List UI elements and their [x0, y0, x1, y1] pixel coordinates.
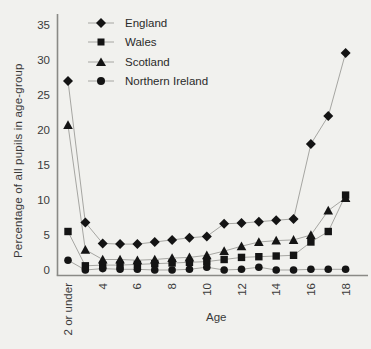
x-axis-title: Age — [206, 311, 226, 323]
x-tick-labels: 2 or under4681012141618 — [62, 282, 352, 335]
legend-item-england: England — [88, 13, 208, 33]
legend-item-northern-ireland: Northern Ireland — [88, 72, 208, 92]
chart-legend: England Wales Scotland Northern Ireland — [88, 13, 208, 91]
triangle-marker-icon — [88, 56, 114, 68]
legend-label-scotland: Scotland — [125, 56, 170, 68]
x-tick-label: 2 or under — [62, 283, 74, 336]
y-tick-label: 30 — [37, 54, 50, 66]
y-tick-label: 15 — [37, 159, 50, 171]
legend-item-wales: Wales — [88, 33, 208, 53]
y-tick-label: 20 — [37, 124, 50, 136]
legend-label-wales: Wales — [125, 36, 157, 48]
square-marker-icon — [88, 36, 114, 48]
x-tick-label: 14 — [270, 282, 282, 295]
chart-figure: 051015202530352 or under4681012141618 Pe… — [0, 0, 371, 349]
y-tick-label: 0 — [44, 264, 50, 276]
y-axis-title: Percentage of all pupils in age-group — [12, 63, 24, 258]
y-tick-labels: 05101520253035 — [37, 19, 50, 276]
y-tick-label: 10 — [37, 194, 50, 206]
y-tick-label: 25 — [37, 89, 50, 101]
y-tick-label: 35 — [37, 19, 50, 31]
x-tick-label: 16 — [305, 283, 317, 296]
legend-label-northern-ireland: Northern Ireland — [125, 75, 208, 87]
x-tick-label: 18 — [340, 283, 352, 296]
legend-item-scotland: Scotland — [88, 52, 208, 72]
legend-label-england: England — [125, 17, 167, 29]
x-tick-label: 12 — [236, 283, 248, 296]
x-tick-label: 4 — [97, 282, 109, 289]
diamond-marker-icon — [88, 17, 114, 29]
y-tick-label: 5 — [44, 229, 50, 241]
x-tick-label: 8 — [166, 283, 178, 289]
x-tick-label: 6 — [131, 283, 143, 289]
x-tick-label: 10 — [201, 283, 213, 296]
circle-marker-icon — [88, 75, 114, 87]
